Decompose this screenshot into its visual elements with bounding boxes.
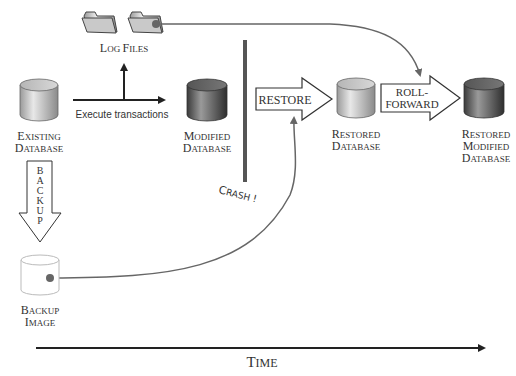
rollforward-label-2: FORWARD xyxy=(385,98,438,110)
log-to-rollforward-connector xyxy=(156,24,420,75)
log-files-folder-icon xyxy=(82,12,117,33)
restored-modified-database-icon xyxy=(464,78,504,118)
time-label: TIME xyxy=(246,354,277,370)
modified-database-icon xyxy=(187,79,227,121)
restored-database-label-2: DATABASE xyxy=(332,139,381,153)
backup-image-label-2: IMAGE xyxy=(25,315,56,329)
database-recovery-diagram: LOG FILES EXISTING DATABASE Execute tran… xyxy=(0,0,516,376)
existing-database-label: EXISTING xyxy=(17,129,61,143)
restore-label: RESTORE xyxy=(258,93,311,107)
modified-database-label-2: DATABASE xyxy=(183,141,232,155)
connector-dot xyxy=(152,20,160,28)
existing-database-icon xyxy=(20,79,58,121)
existing-database-label-2: DATABASE xyxy=(15,141,64,155)
backup-to-restore-connector xyxy=(50,118,295,278)
rollforward-label-1: ROLL- xyxy=(396,86,429,98)
crash-label: CRASH ! xyxy=(217,183,258,205)
restored-modified-database-label-3: DATABASE xyxy=(462,151,511,165)
svg-text:CRASH !: CRASH ! xyxy=(217,183,258,205)
execute-transactions-label: Execute transactions xyxy=(76,109,169,120)
restored-database-icon xyxy=(337,78,375,118)
svg-text:P: P xyxy=(37,215,43,226)
log-files-label: LOG FILES xyxy=(100,41,148,55)
crash-bar xyxy=(243,40,247,182)
backup-image-icon xyxy=(21,255,59,295)
